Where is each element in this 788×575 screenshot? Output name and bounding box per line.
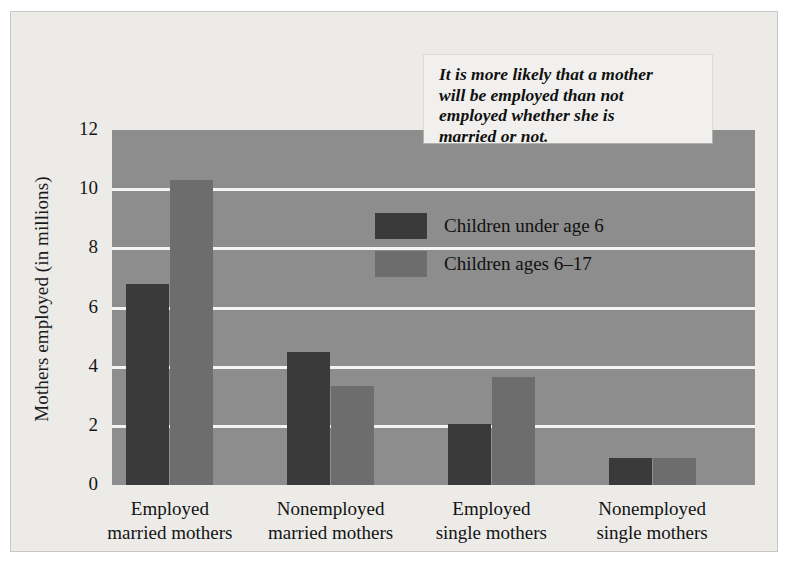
legend-swatch-under-6 (375, 213, 427, 239)
bar (170, 180, 213, 485)
x-axis-tick-label-line: Nonemployed (247, 497, 415, 521)
y-axis-tick-label: 4 (56, 355, 98, 377)
x-axis-tick-label-line: Nonemployed (568, 497, 736, 521)
y-axis-title: Mothers employed (in millions) (31, 134, 53, 464)
x-axis-tick-label-line: Employed (407, 497, 575, 521)
plot-area: Children under age 6 Children ages 6–17 (112, 130, 755, 485)
legend-swatch-6-to-17 (375, 251, 427, 277)
x-axis-tick-label-line: married mothers (247, 521, 415, 545)
x-axis-tick-label: Nonemployedsingle mothers (568, 497, 736, 545)
x-axis-tick-label: Employedmarried mothers (86, 497, 254, 545)
bar (287, 352, 330, 485)
y-axis-tick-label: 12 (56, 118, 98, 140)
x-axis-tick-label-line: Employed (86, 497, 254, 521)
callout-text: It is more likely that a motherwill be e… (439, 64, 698, 146)
legend-item[interactable]: Children under age 6 (375, 210, 604, 241)
x-axis-tick-label: Employedsingle mothers (407, 497, 575, 545)
x-axis-tick-label-line: single mothers (568, 521, 736, 545)
y-axis-tick-label: 0 (56, 473, 98, 495)
y-axis-tick-label: 8 (56, 236, 98, 258)
x-axis-tick-label-line: married mothers (86, 521, 254, 545)
bar (609, 458, 652, 485)
x-axis-tick-label-line: single mothers (407, 521, 575, 545)
bar (126, 284, 169, 485)
bar (492, 377, 535, 485)
y-axis-tick-label: 6 (56, 296, 98, 318)
y-axis-tick-label: 10 (56, 177, 98, 199)
chart-figure: Mothers employed (in millions) 121086420… (0, 0, 788, 575)
bar (331, 386, 374, 485)
y-axis-tick-label: 2 (56, 414, 98, 436)
legend-item[interactable]: Children ages 6–17 (375, 248, 604, 279)
legend-label-6-to-17: Children ages 6–17 (444, 253, 592, 275)
callout-annotation: It is more likely that a motherwill be e… (424, 55, 712, 143)
bar (448, 424, 491, 485)
x-axis-tick-label: Nonemployedmarried mothers (247, 497, 415, 545)
legend: Children under age 6 Children ages 6–17 (375, 210, 604, 286)
legend-label-under-6: Children under age 6 (444, 215, 604, 237)
bar (653, 458, 696, 485)
